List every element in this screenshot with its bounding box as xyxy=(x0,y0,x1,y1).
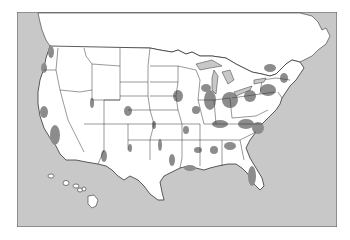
map-frame xyxy=(17,12,337,227)
us-map xyxy=(17,12,337,227)
